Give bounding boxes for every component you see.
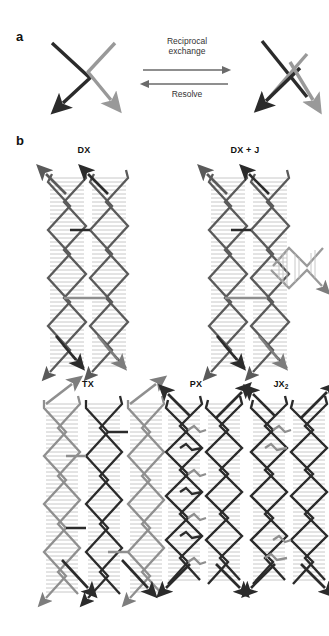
panel-a-graphic xyxy=(0,0,329,130)
jx2-arrow-top-right xyxy=(301,392,327,418)
reciprocal-exchange-label: Reciprocal exchange xyxy=(141,36,233,57)
tx-arrow-top-right xyxy=(130,384,156,404)
basepair-rungs xyxy=(46,178,325,592)
left-dark-strand xyxy=(52,43,90,103)
dxj-arrow-bottom-left xyxy=(217,336,237,360)
left-light-strand xyxy=(88,43,115,100)
motif-jx2 xyxy=(251,392,327,588)
motif-px xyxy=(166,392,242,588)
dx-arrow-bottom-right xyxy=(98,336,118,360)
reaction-arrows xyxy=(143,70,228,84)
panel-a-left-state xyxy=(52,43,115,103)
px-arrow-top-right xyxy=(216,392,242,418)
px-crossovers xyxy=(188,426,206,564)
dna-crossover-motif-figure: a Recip xyxy=(0,0,329,636)
dxj-arrow-bottom-right xyxy=(259,336,279,360)
dx-arrow-bottom-left xyxy=(56,336,76,360)
resolve-label: Resolve xyxy=(141,89,233,99)
tx-arrow-top-left xyxy=(46,384,72,404)
panel-a-right-state xyxy=(262,41,313,101)
panel-b-graphic xyxy=(0,136,329,636)
motif-dx-j xyxy=(207,170,323,372)
